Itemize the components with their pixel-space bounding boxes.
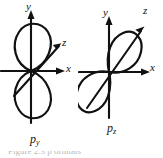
p-z-negative-lobe (78, 71, 110, 112)
axis-label-y-pz: y (103, 7, 108, 18)
cropped-caption-text: Figure 2.3 p orbitals (8, 151, 81, 156)
axis-label-y-py: y (26, 1, 31, 12)
orbital-figure-page: y z x py y z x pz Figure 2.3 p orbitals (0, 0, 163, 158)
axis-label-z-py: z (62, 37, 66, 48)
axis-label-z-pz: z (143, 5, 147, 16)
p-y-orbital-diagram (0, 0, 82, 148)
p-z-orbital-diagram (78, 0, 163, 148)
orbital-label-pz: pz (107, 122, 116, 136)
p-y-lower-lobe (15, 71, 51, 118)
p-y-upper-lobe (15, 24, 51, 71)
axis-label-x-py: x (66, 63, 71, 74)
axis-label-x-pz: x (150, 62, 155, 73)
cropped-caption-strip: Figure 2.3 p orbitals (0, 151, 163, 158)
z-axis-py (14, 43, 62, 96)
orbital-label-py: py (30, 133, 40, 147)
orbital-label-py-subscript: y (36, 138, 40, 147)
orbital-label-pz-subscript: z (113, 127, 116, 136)
y-axis-py (28, 10, 35, 123)
